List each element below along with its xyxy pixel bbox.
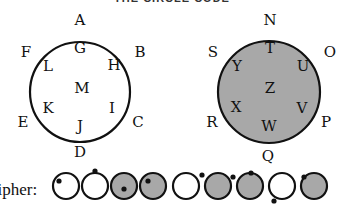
inner-letter-m: M xyxy=(74,79,89,97)
outer-letter-a: A xyxy=(74,11,86,29)
inner-letter-z: Z xyxy=(265,79,275,97)
outer-letter-o: O xyxy=(324,43,336,61)
cipher-dot-7 xyxy=(248,170,253,175)
outer-letter-f: F xyxy=(21,43,31,61)
inner-letter-h: H xyxy=(107,56,120,74)
outer-letter-e: E xyxy=(18,113,29,131)
cipher-dot-5 xyxy=(199,172,204,177)
inner-letter-w: W xyxy=(261,117,277,135)
inner-letter-k: K xyxy=(42,99,54,117)
cipher-label: cipher: xyxy=(0,180,37,200)
outer-letter-p: P xyxy=(321,113,331,131)
cipher-dot-1 xyxy=(56,178,61,183)
cipher-symbol-8 xyxy=(269,173,295,199)
outer-letter-q: Q xyxy=(262,147,274,165)
cipher-symbol-1 xyxy=(53,173,79,199)
cipher-dot-2 xyxy=(92,168,97,173)
cipher-symbol-3 xyxy=(111,173,137,199)
cipher-dot-9 xyxy=(301,174,306,179)
inner-letter-g: G xyxy=(74,39,86,57)
outer-letter-r: R xyxy=(206,113,218,131)
circle-code-diagram: ABCDEFGHIJKLMNOPQRSTUVWXYZ xyxy=(0,0,344,212)
cipher-symbol-7 xyxy=(237,173,263,199)
cipher-dot-3 xyxy=(121,186,126,191)
inner-letter-j: J xyxy=(75,117,83,135)
inner-letter-x: X xyxy=(231,98,242,116)
inner-letter-u: U xyxy=(297,57,310,75)
outer-letter-n: N xyxy=(263,11,276,29)
inner-letter-y: Y xyxy=(231,57,243,75)
cipher-dot-4 xyxy=(145,178,150,183)
outer-letter-d: D xyxy=(74,143,86,161)
outer-letter-c: C xyxy=(132,113,143,131)
cipher-symbol-6 xyxy=(205,173,231,199)
inner-letter-v: V xyxy=(296,99,309,117)
cipher-symbol-5 xyxy=(173,173,199,199)
inner-letter-t: T xyxy=(265,39,275,57)
cipher-symbol-2 xyxy=(82,173,108,199)
inner-letter-i: I xyxy=(109,99,115,117)
outer-letter-s: S xyxy=(208,43,218,61)
inner-letter-l: L xyxy=(43,57,53,75)
cipher-dot-6 xyxy=(230,174,235,179)
cipher-symbol-4 xyxy=(140,173,166,199)
outer-letter-b: B xyxy=(134,43,145,61)
cipher-dot-8 xyxy=(271,198,276,203)
